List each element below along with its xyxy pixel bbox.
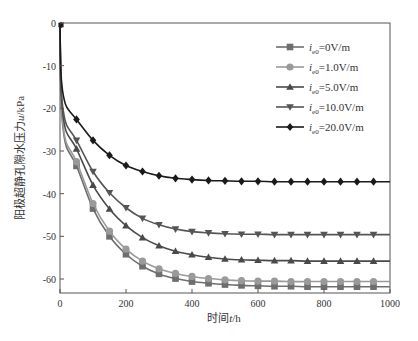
diamond-marker: [287, 123, 294, 131]
diamond-marker: [255, 177, 262, 185]
circle-marker: [73, 158, 80, 165]
circle-marker: [370, 278, 377, 285]
x-tick-label: 600: [251, 298, 266, 309]
legend-label: ie0=1.0V/m: [309, 61, 359, 76]
y-tick-label: -50: [43, 231, 56, 242]
circle-marker: [172, 270, 179, 277]
x-tick-label: 800: [317, 298, 332, 309]
y-tick-label: -30: [43, 146, 56, 157]
circle-marker: [205, 275, 212, 282]
circle-marker: [286, 63, 293, 70]
legend-label: ie0=20.0V/m: [309, 121, 364, 136]
diamond-marker: [123, 161, 130, 169]
legend: ie0=0V/mie0=1.0V/mie0=5.0V/mie0=10.0V/mi…: [276, 41, 364, 136]
y-tick-label: -40: [43, 189, 56, 200]
diamond-marker: [156, 172, 163, 180]
circle-marker: [254, 278, 261, 285]
legend-item: ie0=0V/m: [276, 41, 350, 56]
chart: 020040060080010000-10-20-30-40-50-60 ie0…: [0, 0, 418, 341]
circle-marker: [353, 278, 360, 285]
x-tick-label: 400: [185, 298, 200, 309]
circle-marker: [337, 278, 344, 285]
circle-marker: [89, 200, 96, 207]
circle-marker: [271, 278, 278, 285]
diamond-marker: [205, 176, 212, 184]
diamond-marker: [271, 178, 278, 186]
diamond-marker: [172, 174, 179, 182]
series-line: [60, 23, 390, 261]
circle-marker: [188, 273, 195, 280]
diamond-marker: [189, 175, 196, 183]
circle-marker: [155, 265, 162, 272]
circle-marker: [304, 278, 311, 285]
x-tick-label: 200: [119, 298, 134, 309]
circle-marker: [106, 228, 113, 235]
x-tick-label: 0: [58, 298, 63, 309]
triangle-up-marker: [139, 234, 147, 241]
y-tick-label: -20: [43, 103, 56, 114]
y-tick-label: -10: [43, 61, 56, 72]
triangle-up-marker: [89, 181, 97, 188]
y-axis-label: 阳极超静孔隙水压力u/kPa: [13, 96, 26, 220]
circle-marker: [238, 277, 245, 284]
diamond-marker: [304, 178, 311, 186]
square-marker: [287, 44, 294, 51]
legend-item: ie0=10.0V/m: [276, 101, 364, 116]
legend-item: ie0=1.0V/m: [276, 61, 359, 76]
legend-label: ie0=0V/m: [309, 41, 350, 56]
x-tick-label: 1000: [380, 298, 400, 309]
circle-marker: [320, 278, 327, 285]
circle-marker: [287, 278, 294, 285]
diamond-marker: [139, 167, 146, 175]
diamond-marker: [337, 178, 344, 186]
legend-label: ie0=10.0V/m: [309, 101, 364, 116]
legend-item: ie0=20.0V/m: [276, 121, 364, 136]
diamond-marker: [354, 178, 361, 186]
x-axis-label: 时间t/h: [207, 312, 241, 324]
legend-item: ie0=5.0V/m: [276, 81, 359, 96]
diamond-marker: [238, 177, 245, 185]
circle-marker: [221, 276, 228, 283]
diamond-marker: [288, 178, 295, 186]
y-tick-label: 0: [51, 18, 56, 29]
diamond-marker: [106, 151, 113, 159]
circle-marker: [139, 257, 146, 264]
y-tick-label: -60: [43, 274, 56, 285]
diamond-marker: [370, 178, 377, 186]
diamond-marker: [222, 177, 229, 185]
circle-marker: [122, 246, 129, 253]
diamond-marker: [321, 178, 328, 186]
legend-label: ie0=5.0V/m: [309, 81, 359, 96]
